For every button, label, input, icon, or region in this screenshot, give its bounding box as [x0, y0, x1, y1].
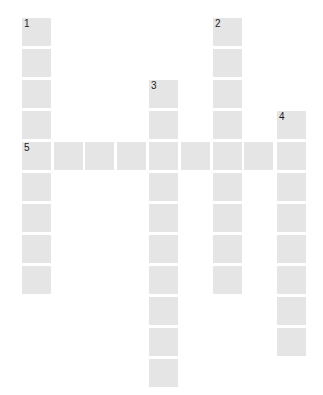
crossword-cell[interactable]: 2 [213, 18, 242, 46]
crossword-cell[interactable] [277, 235, 306, 263]
crossword-cell[interactable] [54, 142, 83, 170]
crossword-cell[interactable] [244, 142, 273, 170]
crossword-cell[interactable] [149, 266, 178, 294]
crossword-cell[interactable] [277, 297, 306, 325]
crossword-cell[interactable] [213, 173, 242, 201]
crossword-cell[interactable]: 1 [22, 18, 51, 46]
crossword-cell[interactable] [149, 142, 178, 170]
crossword-cell[interactable] [149, 359, 178, 387]
crossword-cell[interactable] [277, 266, 306, 294]
crossword-cell[interactable] [181, 142, 210, 170]
crossword-cell[interactable] [22, 204, 51, 232]
crossword-cell[interactable] [277, 204, 306, 232]
crossword-cell[interactable] [22, 49, 51, 77]
clue-number: 1 [24, 18, 30, 30]
crossword-cell[interactable] [213, 266, 242, 294]
crossword-cell[interactable] [277, 142, 306, 170]
crossword-cell[interactable] [22, 80, 51, 108]
crossword-cell[interactable] [213, 235, 242, 263]
crossword-cell[interactable] [85, 142, 114, 170]
crossword-cell[interactable] [213, 204, 242, 232]
crossword-cell[interactable] [149, 204, 178, 232]
crossword-cell[interactable] [213, 49, 242, 77]
crossword-cell[interactable] [149, 235, 178, 263]
crossword-cell[interactable] [149, 328, 178, 356]
clue-number: 2 [215, 18, 221, 30]
clue-number: 5 [24, 142, 30, 154]
crossword-cell[interactable]: 5 [22, 142, 51, 170]
crossword-cell[interactable] [22, 235, 51, 263]
crossword-cell[interactable]: 4 [277, 111, 306, 139]
crossword-cell[interactable] [277, 328, 306, 356]
crossword-cell[interactable] [277, 173, 306, 201]
crossword-cell[interactable] [213, 80, 242, 108]
crossword-cell[interactable] [213, 111, 242, 139]
crossword-cell[interactable] [149, 297, 178, 325]
clue-number: 4 [279, 111, 285, 123]
crossword-grid: 15234 [0, 0, 323, 395]
clue-number: 3 [151, 80, 157, 92]
crossword-cell[interactable] [117, 142, 146, 170]
crossword-cell[interactable] [22, 173, 51, 201]
crossword-cell[interactable] [22, 266, 51, 294]
crossword-cell[interactable]: 3 [149, 80, 178, 108]
crossword-cell[interactable] [213, 142, 242, 170]
crossword-cell[interactable] [22, 111, 51, 139]
crossword-cell[interactable] [149, 111, 178, 139]
crossword-cell[interactable] [149, 173, 178, 201]
